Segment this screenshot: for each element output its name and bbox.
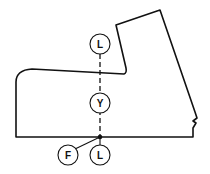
- label-y: Y: [97, 98, 104, 109]
- label-l-bottom: L: [97, 150, 103, 161]
- outline-shape: [16, 10, 197, 137]
- circle-label-f: F: [58, 145, 78, 165]
- circle-label-bottom-l: L: [90, 145, 110, 165]
- diagram-canvas: L Y L F: [0, 0, 210, 174]
- label-f: F: [65, 150, 71, 161]
- circle-label-top-l: L: [90, 34, 110, 54]
- circle-label-y: Y: [90, 93, 110, 113]
- label-l-top: L: [97, 39, 103, 50]
